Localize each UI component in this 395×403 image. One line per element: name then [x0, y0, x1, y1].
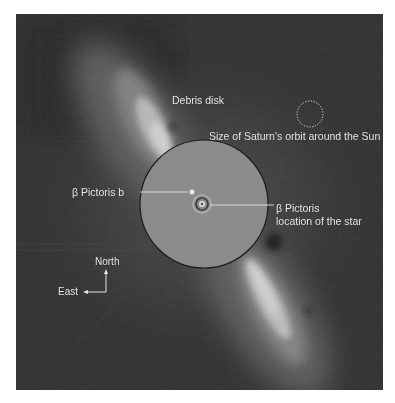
star-icon	[193, 195, 211, 213]
debris-disk-image	[16, 14, 383, 390]
debris-disk-label: Debris disk	[172, 94, 224, 106]
compass-north-label: North	[95, 256, 119, 268]
star-label-line1: β Pictoris	[276, 202, 319, 214]
saturn-orbit-label: Size of Saturn's orbit around the Sun	[209, 130, 380, 142]
astronomy-image: Debris disk Size of Saturn's orbit aroun…	[16, 14, 383, 390]
planet-label: β Pictoris b	[72, 186, 124, 198]
planet-dot-icon	[190, 190, 195, 195]
star-label-line2: location of the star	[276, 215, 362, 227]
compass-east-label: East	[58, 286, 78, 298]
